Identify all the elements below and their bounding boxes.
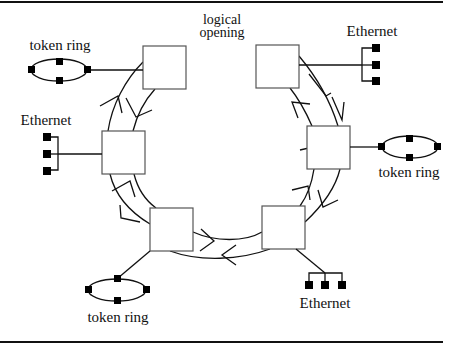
node-icon — [143, 286, 150, 293]
arrow-outer-1 — [100, 96, 122, 113]
node-icon — [84, 66, 91, 73]
token-ring-top-left: token ring — [28, 37, 143, 84]
ring-inner-seg-2 — [134, 174, 156, 208]
node-icon — [43, 133, 51, 141]
node-icon — [406, 135, 413, 142]
token-ring-bottom-left: token ring — [85, 251, 150, 325]
node-icon — [114, 275, 121, 282]
node-icon — [321, 281, 329, 289]
node-icon — [85, 286, 92, 293]
ring-outer-seg-4 — [305, 169, 340, 222]
logical-opening-label-line2: opening — [199, 25, 244, 40]
ring-outer-seg-5 — [299, 56, 338, 126]
node-icon — [372, 77, 380, 85]
ethernet-left: Ethernet — [21, 112, 102, 175]
token-ring-right: token ring — [350, 135, 441, 180]
ring-inner-seg-3 — [193, 232, 262, 240]
network-label: Ethernet — [300, 295, 352, 311]
network-label: token ring — [378, 164, 440, 180]
bridge-bottom-left[interactable] — [150, 208, 193, 251]
network-label: token ring — [87, 309, 149, 325]
node-icon — [28, 66, 35, 73]
node-icon — [372, 44, 380, 52]
node-icon — [434, 143, 441, 150]
bridge-top-right[interactable] — [256, 45, 299, 88]
ethernet-bottom-right: Ethernet — [296, 249, 351, 311]
network-label: Ethernet — [21, 112, 73, 128]
arrow-inner-2 — [112, 181, 135, 197]
node-icon — [406, 154, 413, 161]
arrow-outer-5 — [332, 97, 344, 120]
bridge-top-left[interactable] — [143, 46, 186, 89]
network-label: Ethernet — [347, 23, 399, 39]
bridge-bottom-right[interactable] — [262, 206, 305, 249]
arrow-outer-2 — [120, 205, 140, 222]
node-icon — [372, 61, 380, 69]
node-icon — [114, 297, 121, 304]
bridge-right[interactable] — [307, 126, 350, 169]
link-line — [118, 251, 150, 278]
diagram-canvas: logical opening — [0, 0, 461, 346]
node-icon — [56, 58, 63, 65]
node-icon — [378, 143, 385, 150]
arrow-inner-3 — [200, 229, 214, 251]
node-icon — [338, 281, 346, 289]
link-line — [296, 249, 325, 273]
network-label: token ring — [29, 37, 91, 53]
ring-outer-seg-1 — [108, 62, 143, 131]
node-icon — [43, 167, 51, 175]
bridge-left[interactable] — [102, 131, 145, 174]
node-icon — [43, 150, 51, 158]
arrow-outer-3 — [222, 245, 236, 265]
node-icon — [305, 281, 313, 289]
node-icon — [56, 77, 63, 84]
